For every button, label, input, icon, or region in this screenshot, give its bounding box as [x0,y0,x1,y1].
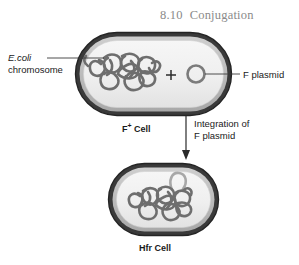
label-ecoli-structure: chromosome [8,64,63,75]
conjugation-figure: 8.10Conjugation [0,0,299,265]
label-f-plasmid: F plasmid [243,69,284,81]
hfr-cell-group [109,164,219,236]
label-f-plus-cell-suffix: Cell [132,124,151,134]
label-integration-line2: F plasmid [194,130,235,141]
figure-title: 8.10Conjugation [160,8,254,23]
label-hfr-cell: Hfr Cell [139,243,171,255]
label-f-plus-cell: F+ Cell [122,120,151,136]
integration-arrow [182,116,190,160]
hfr-cell-cytoplasm [117,172,211,228]
label-ecoli-chromosome: E.coli chromosome [8,52,63,75]
figure-number: 8.10 [160,8,183,22]
label-integration-line1: Integration of [194,118,249,129]
figure-title-text: Conjugation [190,8,254,22]
label-ecoli-organism: E.coli [8,52,31,63]
label-integration-of-f-plasmid: Integration of F plasmid [194,118,249,141]
